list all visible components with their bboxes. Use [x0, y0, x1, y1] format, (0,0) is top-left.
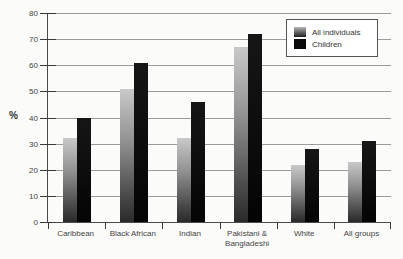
x-label-4: Pakistani &Bangladeshi	[219, 229, 276, 248]
x-tick-3	[220, 222, 221, 229]
bar-all-individuals-6	[348, 162, 362, 222]
bar-all-individuals-4	[234, 47, 248, 222]
y-tick-label-30: 30	[0, 140, 38, 149]
bar-all-individuals-5	[291, 165, 305, 222]
y-tick-label-0: 0	[0, 218, 38, 227]
y-tick-label-50: 50	[0, 87, 38, 96]
x-tick-4	[277, 222, 278, 229]
bar-children-2	[134, 63, 148, 222]
children-swatch-icon	[294, 39, 306, 49]
bar-group-3	[162, 13, 219, 222]
y-tick-label-60: 60	[0, 61, 38, 70]
y-tick-label-20: 20	[0, 166, 38, 175]
x-label-6: All groups	[333, 229, 390, 248]
y-tick-label-10: 10	[0, 192, 38, 201]
x-tick-0	[48, 222, 49, 229]
all-individuals-swatch-icon	[294, 27, 306, 37]
bar-children-1	[77, 118, 91, 223]
legend-label: All individuals	[312, 28, 360, 37]
bar-group-4	[220, 13, 277, 222]
x-label-5: White	[276, 229, 333, 248]
legend-item-all-individuals: All individuals	[294, 27, 371, 37]
bar-all-individuals-2	[120, 89, 134, 222]
bar-children-3	[191, 102, 205, 222]
x-axis-labels: CaribbeanBlack AfricanIndianPakistani &B…	[47, 229, 390, 248]
y-axis: 01020304050607080	[0, 13, 38, 222]
bar-group-2	[105, 13, 162, 222]
bar-children-6	[362, 141, 376, 222]
x-label-3: Indian	[161, 229, 218, 248]
bar-children-4	[248, 34, 262, 222]
bar-chart: % 01020304050607080 CaribbeanBlack Afric…	[0, 0, 403, 259]
x-tick-2	[162, 222, 163, 229]
bar-all-individuals-3	[177, 138, 191, 222]
legend-label: Children	[312, 40, 342, 49]
bar-group-1	[48, 13, 105, 222]
y-tick-label-40: 40	[0, 114, 38, 123]
y-tick-label-70: 70	[0, 35, 38, 44]
legend-item-children: Children	[294, 39, 371, 49]
x-tick-5	[334, 222, 335, 229]
bar-all-individuals-1	[63, 138, 77, 222]
x-tick-6	[390, 222, 391, 229]
x-label-2: Black African	[104, 229, 161, 248]
x-tick-1	[105, 222, 106, 229]
legend: All individuals Children	[286, 19, 378, 57]
x-label-1: Caribbean	[47, 229, 104, 248]
y-tick-label-80: 80	[0, 9, 38, 18]
bar-children-5	[305, 149, 319, 222]
